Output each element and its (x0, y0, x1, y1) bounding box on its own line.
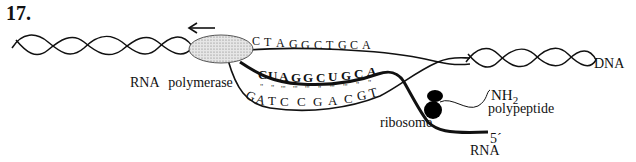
svg-text:C: C (350, 38, 358, 52)
direction-arrow-icon (189, 23, 215, 33)
svg-text:G: G (356, 87, 368, 103)
svg-text:''': ''' (330, 84, 335, 93)
svg-text:G: G (341, 68, 351, 83)
svg-text:": " (271, 84, 274, 93)
svg-text:": " (318, 85, 321, 94)
svg-text:T: T (268, 93, 276, 108)
svg-text:A: A (276, 36, 285, 50)
dna-label: DNA (594, 56, 624, 72)
svg-text:C: C (316, 70, 325, 85)
svg-text:G: G (301, 38, 310, 52)
svg-text:G: G (291, 70, 301, 85)
svg-text:": " (260, 83, 263, 92)
svg-text:''': ''' (293, 85, 298, 94)
svg-text:A: A (328, 93, 338, 108)
diagram-drawing: C T A G G C T G C A C U A G G C U G C A … (0, 0, 636, 162)
svg-text:G: G (303, 70, 313, 85)
svg-text:A: A (362, 38, 371, 52)
polypeptide-label: polypeptide (488, 101, 554, 117)
dna-helix-right (466, 48, 596, 67)
svg-text:U: U (328, 69, 338, 84)
svg-text:G: G (338, 38, 347, 52)
dna-helix-left (12, 35, 192, 54)
question-number: 17. (6, 2, 31, 25)
transcription-translation-diagram: C T A G G C T G C A C U A G G C U G C A … (0, 0, 636, 162)
svg-text:C: C (297, 94, 306, 109)
svg-text:T: T (326, 38, 334, 52)
svg-text:''': ''' (305, 85, 310, 94)
template-strand-sequence: G A T C C G A C G T (243, 84, 378, 109)
svg-text:C: C (314, 38, 322, 52)
rna-polymerase-label: RNA polymerase (130, 75, 233, 91)
svg-text:T: T (264, 35, 272, 49)
svg-text:C: C (258, 67, 267, 82)
svg-text:T: T (367, 84, 379, 101)
svg-text:G: G (289, 37, 298, 51)
svg-text:G: G (313, 94, 322, 109)
rna-label: RNA (470, 143, 500, 159)
svg-text:A: A (367, 64, 377, 79)
polypeptide-chain (440, 90, 490, 107)
rna-polymerase-shape (189, 35, 253, 63)
svg-text:C: C (354, 66, 363, 81)
svg-text:C: C (280, 94, 289, 109)
svg-text:C: C (252, 34, 260, 48)
svg-text:A: A (279, 69, 289, 84)
svg-text:''': ''' (281, 85, 286, 94)
svg-text:C: C (344, 91, 353, 106)
svg-text:U: U (268, 68, 278, 83)
ribosome-label: ribosome (380, 115, 432, 131)
